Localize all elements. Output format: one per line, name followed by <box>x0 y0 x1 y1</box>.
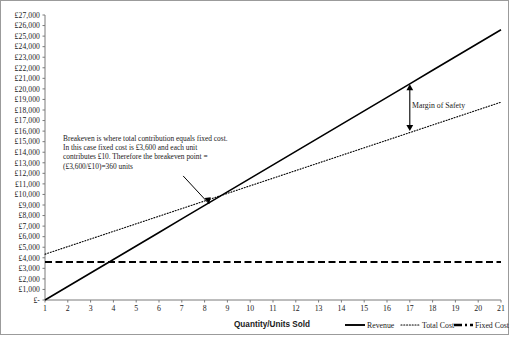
breakeven-annotation-line-4: (£3,600/£10)=360 units <box>63 162 239 171</box>
x-axis-tick-label: 15 <box>354 304 374 313</box>
margin-of-safety-label: Margin of Safety <box>412 101 465 110</box>
y-axis-tick-label: £4,000 <box>1 254 40 263</box>
x-axis-tick-label: 10 <box>240 304 260 313</box>
y-axis-tick-label: £13,000 <box>1 159 40 168</box>
x-axis-tick-label: 8 <box>195 304 215 313</box>
x-axis-title: Quantity/Units Sold <box>234 320 310 329</box>
x-axis-tick-label: 5 <box>126 304 146 313</box>
y-axis-tick-label: £20,000 <box>1 85 40 94</box>
margin-of-safety-arrow-head-bottom <box>406 125 413 131</box>
x-axis-tick-label: 19 <box>445 304 465 313</box>
x-axis-tick-label: 18 <box>423 304 443 313</box>
x-axis-tick-label: 6 <box>149 304 169 313</box>
y-axis-tick-label: £8,000 <box>1 211 40 220</box>
breakeven-annotation-line-3: contributes £10. Therefore the breakeven… <box>63 152 239 161</box>
y-axis-tick-label: £6,000 <box>1 232 40 241</box>
y-axis-tick-label: £7,000 <box>1 222 40 231</box>
y-axis-tick-label: £5,000 <box>1 243 40 252</box>
breakeven-annotation-line-2: In this case fixed cost is £3,600 and ea… <box>63 143 239 152</box>
x-axis-tick-label: 13 <box>309 304 329 313</box>
x-axis-tick-label: 16 <box>377 304 397 313</box>
breakeven-arrow-shaft <box>183 176 209 204</box>
x-axis-tick-label: 17 <box>400 304 420 313</box>
x-axis-tick-label: 2 <box>58 304 78 313</box>
y-axis-tick-label: £19,000 <box>1 95 40 104</box>
x-axis-tick-label: 9 <box>217 304 237 313</box>
x-axis-tick-label: 11 <box>263 304 283 313</box>
y-axis-tick-label: £16,000 <box>1 127 40 136</box>
x-axis-tick-label: 21 <box>491 304 511 313</box>
y-axis-tick-label: £2,000 <box>1 275 40 284</box>
y-axis-tick-label: £10,000 <box>1 190 40 199</box>
y-axis-tick-label: £14,000 <box>1 148 40 157</box>
legend-item-revenue: Revenue <box>367 321 394 330</box>
y-axis-tick-label: £18,000 <box>1 106 40 115</box>
x-axis-tick-label: 7 <box>172 304 192 313</box>
y-axis-tick-label: £24,000 <box>1 42 40 51</box>
legend-item-total-cost: Total Cost <box>422 321 454 330</box>
y-axis-tick-label: £17,000 <box>1 116 40 125</box>
y-axis-tick-label: £23,000 <box>1 53 40 62</box>
y-axis-tick-label: £26,000 <box>1 21 40 30</box>
y-axis-tick-label: £9,000 <box>1 201 40 210</box>
x-axis-tick-label: 3 <box>81 304 101 313</box>
x-axis-tick-label: 1 <box>35 304 55 313</box>
series-line-total-cost <box>45 102 501 254</box>
breakeven-annotation-line-1: Breakeven is where total contribution eq… <box>63 134 239 143</box>
x-axis-tick-label: 14 <box>331 304 351 313</box>
breakeven-annotation: Breakeven is where total contribution eq… <box>63 134 239 171</box>
chart-figure: Breakeven is where total contribution eq… <box>0 0 509 335</box>
y-axis-tick-label: £25,000 <box>1 32 40 41</box>
y-axis-tick-label: £15,000 <box>1 137 40 146</box>
y-axis-tick-label: £27,000 <box>1 11 40 20</box>
y-axis-tick-label: £21,000 <box>1 74 40 83</box>
x-axis-tick-label: 12 <box>286 304 306 313</box>
x-axis-tick-label: 20 <box>468 304 488 313</box>
y-axis-tick-label: £3,000 <box>1 264 40 273</box>
x-axis-tick-label: 4 <box>103 304 123 313</box>
y-axis-tick-label: £22,000 <box>1 64 40 73</box>
y-axis-tick-label: £1,000 <box>1 285 40 294</box>
y-axis-tick-label: £11,000 <box>1 180 40 189</box>
y-axis-tick-label: £12,000 <box>1 169 40 178</box>
legend-item-fixed-cost: Fixed Cost <box>475 321 509 330</box>
